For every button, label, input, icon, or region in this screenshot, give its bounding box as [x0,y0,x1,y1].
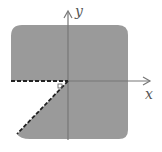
y-axis-label: y [75,3,83,19]
complex-plane-diagram: y x [0,0,162,152]
x-axis-label: x [145,86,153,102]
diagram-svg [0,0,162,152]
